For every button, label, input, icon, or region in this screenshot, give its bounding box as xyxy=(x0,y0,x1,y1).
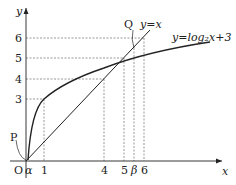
y-tick-3: 3 xyxy=(15,93,22,106)
y-tick-4: 4 xyxy=(15,73,22,86)
y-axis-label: y xyxy=(15,5,23,18)
x-tick-alpha: α xyxy=(25,164,33,177)
log-curve xyxy=(28,42,210,160)
point-p-label: P xyxy=(10,131,18,144)
y-axis-arrow-icon xyxy=(24,8,29,14)
origin-label: O xyxy=(14,164,23,177)
y-tick-6: 6 xyxy=(15,32,22,45)
x-tick-beta: β xyxy=(130,164,137,177)
x-tick-6: 6 xyxy=(141,164,148,177)
x-tick-4: 4 xyxy=(101,164,108,177)
line-y-equals-x xyxy=(26,30,150,161)
curve-label: y=log₂x+3 xyxy=(171,31,231,44)
graph: y x O α 1 4 5 β 6 3 4 5 6 P Q y=x y=log₂… xyxy=(0,0,236,185)
line-label: y=x xyxy=(139,18,162,31)
x-axis-label: x xyxy=(222,165,229,178)
point-q-label: Q xyxy=(124,18,133,31)
x-axis-arrow-icon xyxy=(216,159,222,164)
y-tick-5: 5 xyxy=(15,52,22,65)
x-tick-5: 5 xyxy=(121,164,128,177)
q-pointer xyxy=(132,30,134,48)
p-pointer xyxy=(16,140,26,160)
x-tick-1: 1 xyxy=(41,164,48,177)
